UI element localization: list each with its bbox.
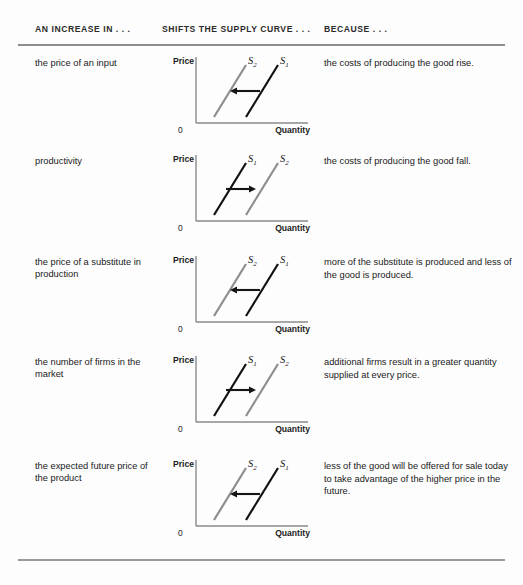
curve-label-left: S1 xyxy=(248,354,257,368)
origin-label: 0 xyxy=(178,324,183,334)
supply-shift-table: AN INCREASE IN . . . SHIFTS THE SUPPLY C… xyxy=(0,0,523,585)
x-axis-label: Quantity xyxy=(216,528,310,538)
column-header-cause: AN INCREASE IN . . . xyxy=(35,24,131,34)
reason-cell: the costs of producing the good fall. xyxy=(324,155,512,168)
shift-arrow-head xyxy=(249,185,256,192)
cause-cell: the price of a substitute in production xyxy=(35,256,161,281)
curve-label-left: S2 xyxy=(248,55,257,69)
origin-label: 0 xyxy=(178,223,183,233)
y-axis-label: Price xyxy=(160,355,194,365)
cause-cell: the number of firms in the market xyxy=(35,356,161,381)
reason-cell: the costs of producing the good rise. xyxy=(324,57,512,70)
column-header-effect: SHIFTS THE SUPPLY CURVE . . . xyxy=(162,24,311,34)
curve-label-subscript: 2 xyxy=(285,159,289,167)
curve-label-subscript: 2 xyxy=(285,360,289,368)
curve-label-subscript: 2 xyxy=(253,260,257,268)
supply-shift-chart: PriceQuantity0S1S2 xyxy=(160,354,310,440)
reason-cell: more of the substitute is produced and l… xyxy=(324,256,512,281)
column-header-reason: BECAUSE . . . xyxy=(324,24,388,34)
curve-label-left: S1 xyxy=(248,153,257,167)
y-axis-label: Price xyxy=(160,459,194,469)
cause-cell: the expected future price of the product xyxy=(35,460,161,485)
table-header: AN INCREASE IN . . . SHIFTS THE SUPPLY C… xyxy=(0,24,523,40)
header-divider xyxy=(18,44,505,46)
origin-label: 0 xyxy=(178,528,183,538)
y-axis-label: Price xyxy=(160,255,194,265)
x-axis-label: Quantity xyxy=(216,223,310,233)
curve-label-left: S2 xyxy=(248,458,257,472)
shift-arrow-head xyxy=(249,386,256,393)
x-axis-label: Quantity xyxy=(216,324,310,334)
curve-label-subscript: 1 xyxy=(253,360,257,368)
footer-divider xyxy=(18,559,505,561)
curve-label-right: S1 xyxy=(280,55,289,69)
curve-label-subscript: 2 xyxy=(253,464,257,472)
supply-shift-chart: PriceQuantity0S1S2 xyxy=(160,153,310,239)
supply-shift-chart: PriceQuantity0S2S1 xyxy=(160,458,310,544)
origin-label: 0 xyxy=(178,424,183,434)
y-axis-label: Price xyxy=(160,56,194,66)
cause-cell: productivity xyxy=(35,155,161,167)
cause-cell: the price of an input xyxy=(35,57,161,69)
curve-label-subscript: 1 xyxy=(285,61,289,69)
curve-label-subscript: 2 xyxy=(253,61,257,69)
x-axis-label: Quantity xyxy=(216,424,310,434)
supply-shift-chart: PriceQuantity0S2S1 xyxy=(160,254,310,340)
curve-label-subscript: 1 xyxy=(253,159,257,167)
x-axis-label: Quantity xyxy=(216,125,310,135)
reason-cell: additional firms result in a greater qua… xyxy=(324,356,512,381)
curve-label-right: S2 xyxy=(280,354,289,368)
origin-label: 0 xyxy=(178,125,183,135)
curve-label-right: S2 xyxy=(280,153,289,167)
curve-label-right: S1 xyxy=(280,254,289,268)
curve-label-subscript: 1 xyxy=(285,464,289,472)
reason-cell: less of the good will be offered for sal… xyxy=(324,460,512,498)
supply-shift-chart: PriceQuantity0S2S1 xyxy=(160,55,310,141)
y-axis-label: Price xyxy=(160,154,194,164)
curve-label-subscript: 1 xyxy=(285,260,289,268)
curve-label-left: S2 xyxy=(248,254,257,268)
curve-label-right: S1 xyxy=(280,458,289,472)
